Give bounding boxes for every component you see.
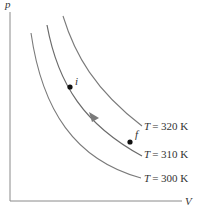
initial-state-label: i <box>75 75 78 87</box>
x-axis-label: V <box>185 195 193 207</box>
isotherm-300k-label: T= 300 K <box>144 172 188 184</box>
isotherm-300k-curve <box>31 33 141 178</box>
isotherm-310k-label: T= 310 K <box>144 148 188 160</box>
isotherm-310k-curve <box>47 25 142 156</box>
final-state-point <box>127 139 132 144</box>
isotherm-320k-curve <box>63 16 142 126</box>
pv-isotherm-diagram: p V i f T= 320 K T= 310 K T= 300 K <box>0 0 201 214</box>
isotherm-320k-value: = 320 K <box>152 120 188 132</box>
y-axis-label: p <box>4 0 11 10</box>
isotherm-310k-var: T <box>144 148 151 160</box>
isotherm-320k-label: T= 320 K <box>144 120 188 132</box>
final-state-label: f <box>135 128 140 140</box>
process-direction-arrow-icon <box>89 112 99 122</box>
initial-state-point <box>67 84 72 89</box>
isotherm-310k-value: = 310 K <box>152 148 188 160</box>
isotherm-320k-var: T <box>144 120 151 132</box>
isotherm-300k-var: T <box>144 172 151 184</box>
isotherm-300k-value: = 300 K <box>152 172 188 184</box>
